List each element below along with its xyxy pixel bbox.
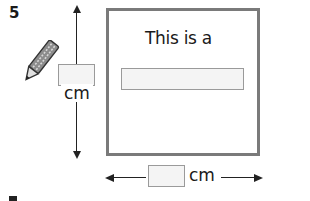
vertical-unit-label: cm (61, 84, 93, 102)
horizontal-unit-label: cm (189, 166, 215, 184)
arrow-right-icon (254, 174, 263, 182)
horizontal-length-input[interactable] (148, 165, 185, 187)
horizontal-dimension-line-right (221, 177, 257, 178)
next-question-cutoff (9, 196, 17, 201)
arrow-up-icon (73, 5, 81, 13)
pencil-icon (16, 40, 62, 86)
shape-prompt: This is a (145, 28, 212, 48)
arrow-down-icon (73, 151, 81, 159)
question-number: 5 (9, 4, 19, 22)
shape-name-input[interactable] (121, 68, 244, 90)
horizontal-dimension-line-left (112, 177, 146, 178)
